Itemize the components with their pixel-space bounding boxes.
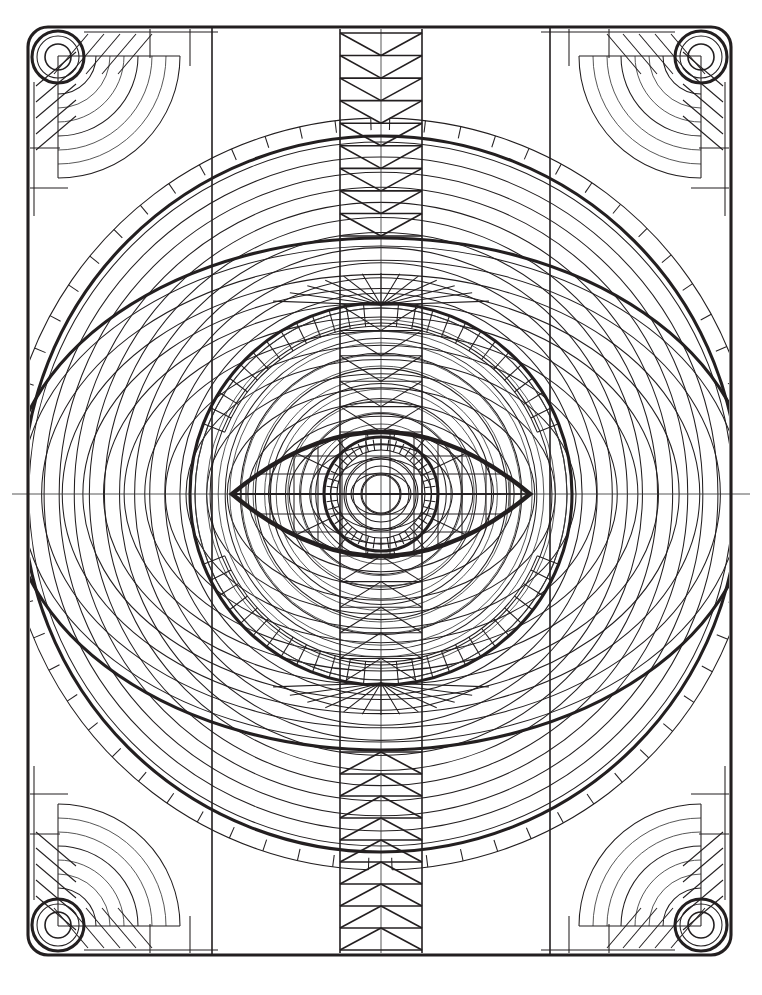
mandala-line-art — [0, 0, 762, 995]
artwork-canvas — [0, 0, 762, 995]
